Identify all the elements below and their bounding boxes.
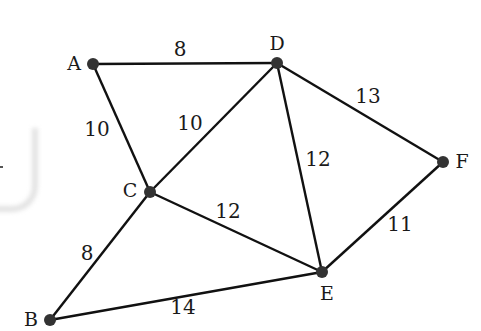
edges xyxy=(50,63,443,320)
graph-diagram: 8101013121211814 ADCFEB xyxy=(0,0,481,331)
node-a xyxy=(87,58,99,70)
edge-weight-c-e: 12 xyxy=(215,199,240,223)
node-label-b: B xyxy=(24,308,38,330)
node-label-a: A xyxy=(66,52,81,74)
node-label-e: E xyxy=(320,282,334,304)
edge-d-f xyxy=(277,63,443,162)
edge-weight-b-e: 14 xyxy=(170,295,195,319)
edge-weight-c-b: 8 xyxy=(81,241,94,265)
edge-weight-c-d: 10 xyxy=(177,111,202,135)
edge-weight-f-e: 11 xyxy=(387,212,412,236)
edge-c-b xyxy=(50,192,150,320)
node-label-f: F xyxy=(455,150,468,172)
node-e xyxy=(316,266,328,278)
node-c xyxy=(144,186,156,198)
edge-weight-d-e: 12 xyxy=(305,147,330,171)
node-label-d: D xyxy=(269,32,284,54)
edge-weight-a-d: 8 xyxy=(174,37,187,61)
edge-a-d xyxy=(93,63,277,64)
edge-weight-a-c: 10 xyxy=(84,117,109,141)
edge-weight-d-f: 13 xyxy=(355,84,380,108)
node-label-c: C xyxy=(123,179,138,201)
edge-c-d xyxy=(150,63,277,192)
node-b xyxy=(44,314,56,326)
node-f xyxy=(437,156,449,168)
node-d xyxy=(271,57,283,69)
edge-weights: 8101013121211814 xyxy=(81,37,413,319)
edge-f-e xyxy=(322,162,443,272)
